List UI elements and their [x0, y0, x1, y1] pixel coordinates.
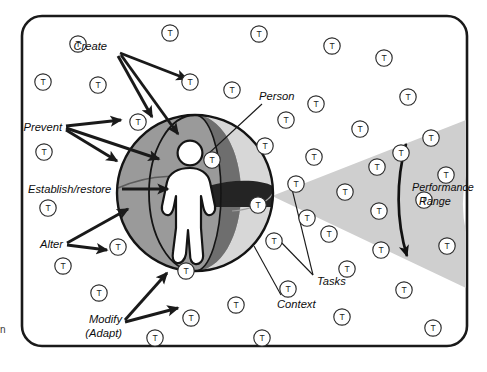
diagram-canvas: TTTTTTTTTTTTTTTTTTTTTTTTTTTTTTTTTTTTTTTT… [0, 0, 487, 372]
task-node: T [183, 310, 199, 326]
task-node: T [257, 138, 273, 154]
label-performance-range: Performance [412, 181, 474, 193]
task-node-label: T [381, 53, 387, 63]
task-node-label: T [255, 200, 261, 210]
task-node: T [224, 82, 240, 98]
task-node: T [369, 159, 385, 175]
task-node-label: T [344, 264, 350, 274]
task-node: T [40, 200, 56, 216]
task-node-label: T [342, 187, 348, 197]
task-node: T [130, 114, 146, 130]
task-node-label: T [378, 245, 384, 255]
task-node: T [396, 282, 412, 298]
task-node-label: T [329, 41, 335, 51]
task-node-label: T [374, 162, 380, 172]
task-node: T [251, 26, 267, 42]
task-node-label: T [95, 80, 101, 90]
task-node-label: T [233, 300, 239, 310]
label-create: Create [73, 40, 107, 52]
task-node-label: T [152, 333, 158, 343]
task-node-label: T [45, 203, 51, 213]
task-node: T [321, 226, 337, 242]
task-node-label: T [443, 170, 449, 180]
task-node-label: T [187, 77, 193, 87]
task-node: T [371, 203, 387, 219]
task-node-label: T [259, 333, 265, 343]
task-node: T [266, 233, 282, 249]
task-node-label: T [40, 77, 46, 87]
task-node-label: T [313, 99, 319, 109]
task-node-label: T [376, 206, 382, 216]
label-modify: Modify [89, 313, 123, 325]
task-node-label: T [428, 133, 434, 143]
task-node-label: T [311, 152, 317, 162]
task-node-label: T [115, 242, 121, 252]
task-node-label: T [326, 229, 332, 239]
task-node: T [90, 77, 106, 93]
task-node-label: T [285, 284, 291, 294]
task-node-label: T [188, 313, 194, 323]
task-node: T [308, 96, 324, 112]
task-node-label: T [262, 141, 268, 151]
task-node: T [110, 239, 126, 255]
caption-fragment: n [0, 324, 6, 335]
task-node: T [147, 330, 163, 346]
label-establish-restore: Establish/restore [28, 183, 111, 195]
task-node-label: T [283, 115, 289, 125]
task-node: T [162, 25, 178, 41]
task-node-label: T [405, 92, 411, 102]
task-node: T [425, 320, 441, 336]
task-node-label: T [398, 148, 404, 158]
label-tasks: Tasks [317, 275, 346, 287]
task-node: T [254, 330, 270, 346]
task-node: T [250, 197, 266, 213]
label-context: Context [277, 298, 316, 310]
task-node: T [36, 144, 52, 160]
task-node-label: T [304, 213, 310, 223]
task-node: T [306, 149, 322, 165]
task-node-label: T [430, 323, 436, 333]
task-node: T [55, 258, 71, 274]
task-node-label: T [135, 117, 141, 127]
task-node-label: T [401, 285, 407, 295]
task-node: T [352, 121, 368, 137]
task-node: T [423, 130, 439, 146]
task-node: T [299, 210, 315, 226]
task-node-label: T [60, 261, 66, 271]
task-node-label: T [271, 236, 277, 246]
task-node-label: T [357, 124, 363, 134]
task-node-label: T [167, 28, 173, 38]
task-node: T [324, 38, 340, 54]
task-node: T [288, 176, 304, 192]
task-node: T [400, 89, 416, 105]
task-node: T [204, 152, 220, 168]
task-node-label: T [209, 155, 215, 165]
label-prevent: Prevent [23, 121, 62, 133]
task-node-label: T [339, 312, 345, 322]
task-node: T [228, 297, 244, 313]
diagram-svg: TTTTTTTTTTTTTTTTTTTTTTTTTTTTTTTTTTTTTTTT… [0, 0, 487, 372]
task-node: T [376, 50, 392, 66]
task-node-label: T [41, 147, 47, 157]
task-node: T [182, 74, 198, 90]
task-node: T [439, 238, 455, 254]
task-node-label: T [293, 179, 299, 189]
task-node: T [35, 74, 51, 90]
task-node-label: T [96, 288, 102, 298]
task-node-label: T [183, 266, 189, 276]
label-alter: Alter [39, 238, 64, 250]
task-node: T [337, 184, 353, 200]
label-person: Person [259, 90, 294, 102]
task-node: T [373, 242, 389, 258]
task-node: T [280, 281, 296, 297]
task-node-label: T [444, 241, 450, 251]
task-node: T [91, 285, 107, 301]
task-node-label: T [256, 29, 262, 39]
task-node: T [178, 263, 194, 279]
label-modify-adapt: (Adapt) [85, 327, 122, 339]
task-node: T [393, 145, 409, 161]
task-node: T [278, 112, 294, 128]
task-node: T [334, 309, 350, 325]
label-performance-range-line2: Range [419, 195, 451, 207]
task-node-label: T [229, 85, 235, 95]
